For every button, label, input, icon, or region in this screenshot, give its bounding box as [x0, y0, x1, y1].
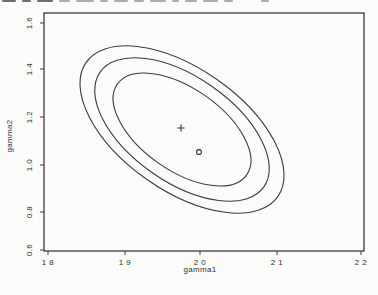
- y-tick-label: 0.6: [25, 244, 34, 257]
- x-tick-label: 2 0: [194, 258, 207, 267]
- x-tick-label: 2 2: [355, 258, 368, 267]
- plot-canvas: gamma1 gamma2 1 81 92 02 12 21.61.41.21.…: [0, 0, 378, 295]
- x-tick-label: 1 9: [119, 258, 132, 267]
- cropped-text-line: [2, 0, 275, 3]
- x-tick-label: 2 1: [271, 258, 284, 267]
- contour-ellipse-inner: [94, 51, 270, 209]
- y-tick-label: 0.8: [25, 206, 34, 219]
- y-tick-label: 1.6: [25, 17, 34, 30]
- plus-marker: [178, 125, 185, 132]
- circle-marker: [197, 150, 202, 155]
- contour-ellipse-outer: [51, 12, 313, 246]
- plot-built-content: 1 81 92 02 12 21.61.41.21.00.80.6: [25, 12, 368, 267]
- plot-frame: [44, 13, 364, 251]
- y-tick-label: 1.4: [25, 63, 34, 76]
- scanned-figure-page: gamma1 gamma2 1 81 92 02 12 21.61.41.21.…: [0, 0, 378, 295]
- x-tick-label: 1 8: [42, 258, 55, 267]
- y-axis-title: gamma2: [5, 119, 14, 152]
- y-tick-label: 1.2: [25, 111, 34, 124]
- y-tick-label: 1.0: [25, 159, 34, 172]
